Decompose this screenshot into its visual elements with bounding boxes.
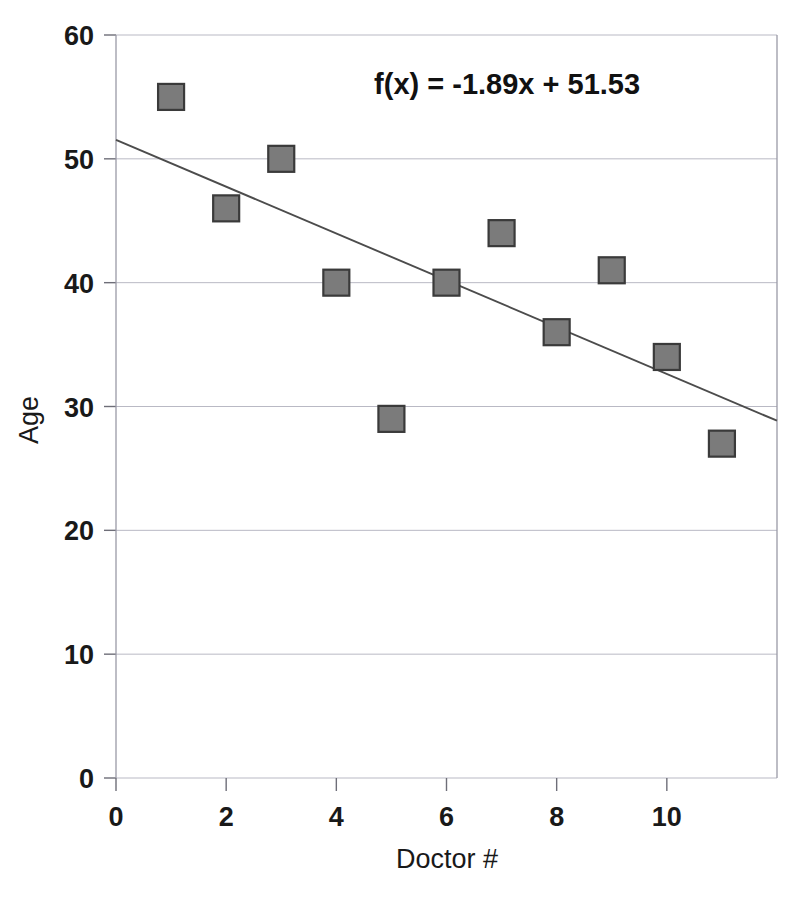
- y-axis-tick-label: 60: [64, 21, 94, 51]
- x-axis-tick-label: 0: [108, 802, 123, 832]
- y-axis-tick-label: 50: [64, 145, 94, 175]
- y-axis-title: Age: [14, 396, 44, 444]
- y-axis-tick-label: 30: [64, 393, 94, 423]
- data-point-marker: [544, 319, 570, 345]
- x-axis-tick-label: 4: [329, 802, 344, 832]
- data-point-marker: [158, 84, 184, 110]
- x-axis-tick-label: 6: [439, 802, 454, 832]
- x-axis-title: Doctor #: [396, 844, 498, 874]
- y-axis-tick-label: 0: [79, 764, 94, 794]
- y-axis-tick-label: 10: [64, 640, 94, 670]
- x-axis-tick-label: 8: [549, 802, 564, 832]
- data-point-marker: [709, 431, 735, 457]
- data-point-marker: [268, 146, 294, 172]
- data-point-marker: [599, 257, 625, 283]
- chart-figure: 0102030405060 0246810 f(x) = -1.89x + 51…: [0, 0, 797, 898]
- data-point-marker: [434, 270, 460, 296]
- scatter-plot: 0102030405060 0246810 f(x) = -1.89x + 51…: [0, 0, 797, 898]
- plot-background: [0, 0, 797, 898]
- trendline-equation-label: f(x) = -1.89x + 51.53: [374, 68, 640, 100]
- x-axis-tick-label: 10: [652, 802, 682, 832]
- y-axis-tick-label: 20: [64, 516, 94, 546]
- data-point-marker: [489, 220, 515, 246]
- x-axis-tick-label: 2: [219, 802, 234, 832]
- data-point-marker: [213, 195, 239, 221]
- data-point-marker: [323, 270, 349, 296]
- data-point-marker: [654, 344, 680, 370]
- y-axis-tick-label: 40: [64, 269, 94, 299]
- data-point-marker: [378, 406, 404, 432]
